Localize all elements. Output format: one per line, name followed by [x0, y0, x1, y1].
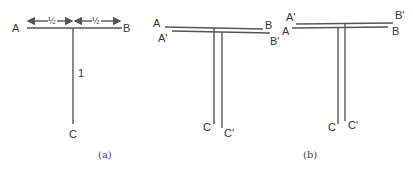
crossbar-ab-prime	[296, 23, 393, 24]
label-c-prime: C'	[224, 127, 234, 139]
label-b: B	[265, 19, 272, 31]
label-a-prime: A'	[158, 32, 167, 44]
dimension-right: ½	[92, 16, 100, 26]
label-b-prime: B'	[395, 9, 404, 21]
label-a: A	[282, 25, 290, 37]
caption-a: (a)	[98, 149, 112, 160]
label-c-prime: C'	[348, 119, 358, 131]
label-b: B	[392, 25, 399, 37]
label-c: C	[203, 121, 211, 133]
label-c: C	[328, 121, 336, 133]
caption-b: (b)	[303, 149, 317, 160]
label-a: A	[12, 22, 20, 34]
label-a-prime: A'	[286, 11, 295, 23]
panel-b-left: A A' B B' C C'	[153, 17, 279, 139]
label-b: B	[123, 22, 130, 34]
crossbar-ab	[292, 27, 388, 28]
label-b-prime: B'	[270, 35, 279, 47]
panel-a: A B ½ ½ 1 C (a)	[12, 16, 130, 160]
dimension-left: ½	[48, 16, 56, 26]
label-c: C	[69, 128, 77, 140]
panel-b-right: A' A B' B C C' (b)	[282, 9, 404, 160]
crossbar-ab-prime	[172, 31, 270, 33]
t-shape-diagram: A B ½ ½ 1 C (a) A A' B B' C C' A' A B' B	[0, 0, 413, 169]
stem-length-label: 1	[78, 67, 84, 79]
label-a: A	[153, 17, 161, 29]
